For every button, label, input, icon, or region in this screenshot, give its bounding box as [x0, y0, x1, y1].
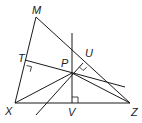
label-X: X: [4, 105, 13, 117]
segment-XP: [15, 73, 72, 103]
label-V: V: [68, 106, 77, 118]
segment-ZP: [72, 73, 130, 103]
right-angle-marker-V: [72, 97, 78, 103]
label-M: M: [32, 4, 42, 16]
line-T-through-P: [25, 60, 125, 87]
label-P: P: [61, 57, 69, 69]
line-U-through-P: [36, 63, 83, 115]
right-angle-marker-T: [27, 66, 32, 72]
label-Z: Z: [130, 106, 139, 118]
label-U: U: [85, 47, 93, 59]
side-MZ: [36, 17, 130, 103]
right-angle-marker-U: [79, 67, 87, 71]
triangle-diagram: M T U P X V Z: [0, 0, 142, 123]
